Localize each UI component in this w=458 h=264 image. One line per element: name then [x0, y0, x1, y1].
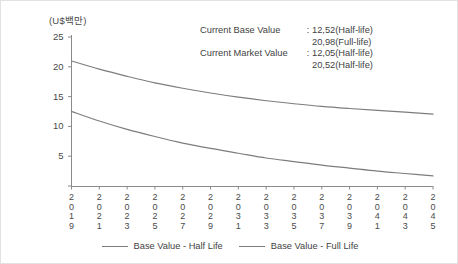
chart-legend: Base Value - Half LifeBase Value - Full …: [1, 241, 458, 251]
x-axis-tick-label: 2023: [119, 193, 135, 231]
x-axis-tick-label: 2021: [91, 193, 107, 231]
y-axis-tick-label: 20: [42, 61, 64, 72]
annotation-separator: :: [304, 48, 312, 60]
chart-annotation-block: Current Base Value:12,52(Half-life)Curre…: [200, 25, 373, 71]
annotation-value: 12,05(Half-life): [312, 48, 373, 60]
annotation-row: Current Market Value:20,52(Half-life): [200, 60, 373, 72]
y-axis-tick-label: 10: [42, 120, 64, 131]
x-axis-tick-label: 2029: [203, 193, 219, 231]
x-axis-tick-label: 2037: [314, 193, 330, 231]
annotation-label: Current Base Value: [200, 25, 304, 37]
x-axis-tick-label: 2043: [397, 193, 413, 231]
chart-figure: (U$백만) 510152025 20192021202320252027202…: [0, 0, 458, 264]
x-axis-tick-label: 2041: [369, 193, 385, 231]
x-axis-tick-label: 2035: [286, 193, 302, 231]
legend-entry: Base Value - Half Life: [102, 241, 223, 251]
annotation-separator: :: [304, 25, 312, 37]
annotation-row: Current Base Value:20,98(Full-life): [200, 37, 373, 49]
data-series-group: [72, 61, 434, 176]
x-axis-tick-label: 2019: [64, 193, 80, 231]
legend-label: Base Value - Half Life: [134, 241, 223, 251]
y-axis-tick-label: 25: [42, 31, 64, 42]
y-axis-tick-label: 5: [42, 150, 64, 161]
x-axis-tick-label: 2031: [230, 193, 246, 231]
legend-line-swatch: [239, 246, 265, 247]
y-axis-tick-label: 15: [42, 91, 64, 102]
legend-entry: Base Value - Full Life: [239, 241, 359, 251]
x-axis-tick-label: 2045: [425, 193, 441, 231]
x-axis-tick-label: 2027: [175, 193, 191, 231]
annotation-label: Current Market Value: [200, 48, 304, 60]
annotation-value: 20,52(Half-life): [312, 60, 373, 72]
x-axis-tick-label: 2033: [258, 193, 274, 231]
annotation-value: 12,52(Half-life): [312, 25, 373, 37]
x-axis-tick-label: 2039: [342, 193, 358, 231]
x-axis-tick-label: 2025: [147, 193, 163, 231]
legend-label: Base Value - Full Life: [271, 241, 359, 251]
annotation-row: Current Market Value:12,05(Half-life): [200, 48, 373, 60]
annotation-value: 20,98(Full-life): [312, 37, 371, 49]
data-series-line: [72, 111, 434, 175]
legend-line-swatch: [102, 246, 128, 247]
annotation-row: Current Base Value:12,52(Half-life): [200, 25, 373, 37]
